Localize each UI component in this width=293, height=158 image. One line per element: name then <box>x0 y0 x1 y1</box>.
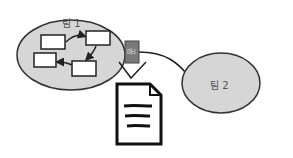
node-box <box>72 61 96 76</box>
connector-label: 문 <box>125 48 136 55</box>
node-box <box>41 35 65 49</box>
team1-label: 팀 1 <box>62 15 81 30</box>
node-box <box>86 31 110 45</box>
document-icon <box>117 84 161 144</box>
node-box <box>34 53 56 67</box>
diagram-canvas <box>0 0 293 158</box>
connector-line <box>139 52 190 78</box>
team2-label: 팀 2 <box>210 77 229 92</box>
